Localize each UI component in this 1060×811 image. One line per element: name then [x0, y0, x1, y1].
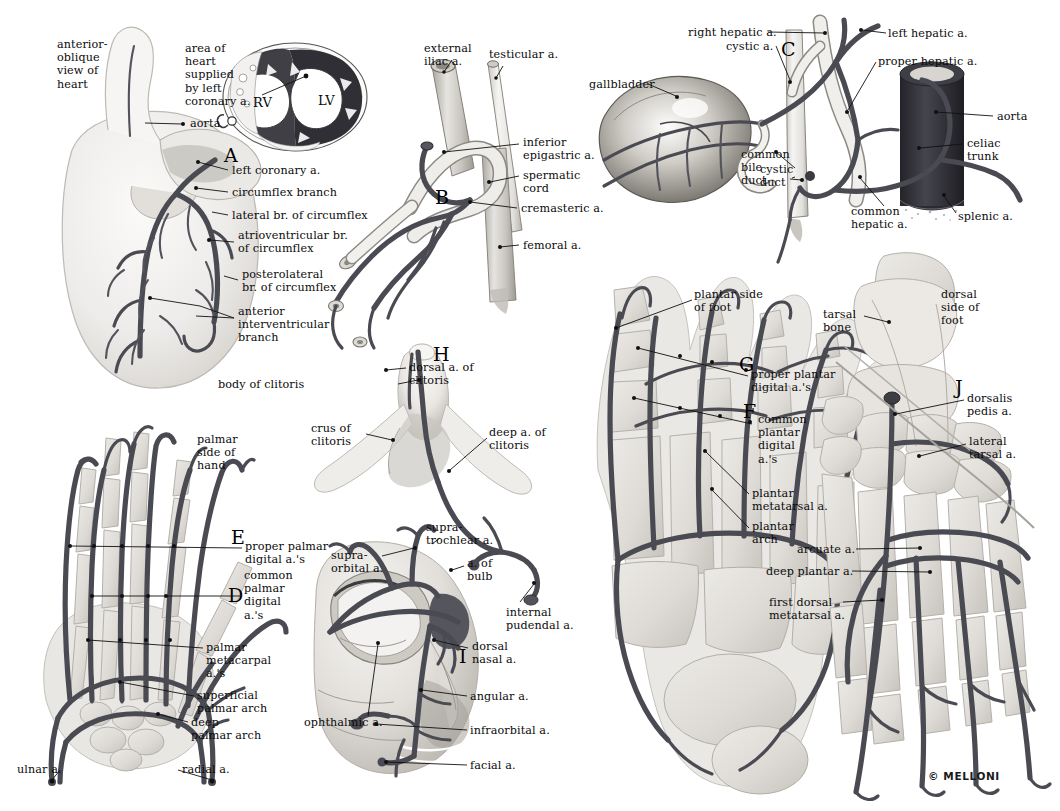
label-splenic-a: splenic a. — [958, 210, 1013, 223]
label-cystic-a: cystic a. — [726, 40, 773, 53]
label-internal-pudendal-a: internal pudendal a. — [506, 606, 574, 632]
label-body-of-clitoris: body of clitoris — [218, 378, 304, 391]
label-femoral-a: femoral a. — [523, 239, 581, 252]
label-lv: LV — [318, 94, 335, 107]
label-anterior-interventricular: anterior interventricular branch — [238, 305, 329, 345]
label-a-of-bulb: a. of bulb — [467, 557, 493, 583]
label-aorta-heart: aorta — [190, 117, 220, 130]
label-atrioventricular-br: atrioventricular br. of circumflex — [238, 229, 348, 255]
label-celiac-trunk: celiac trunk — [967, 137, 1001, 163]
label-angular-a: angular a. — [470, 690, 529, 703]
label-superficial-palmar-arch: superficial palmar arch — [197, 689, 267, 715]
label-infraorbital-a: infraorbital a. — [470, 724, 550, 737]
panel-letter-F: F — [743, 402, 756, 421]
label-plantar-arch: plantar arch — [752, 520, 794, 546]
panel-letter-D: D — [228, 586, 243, 605]
label-crus-of-clitoris: crus of clitoris — [311, 422, 351, 448]
label-spermatic-cord: spermatic cord — [523, 169, 580, 195]
label-deep-palmar-arch: deep palmar arch — [191, 716, 261, 742]
label-plantar-metatarsal-a: plantar metatarsal a. — [752, 487, 828, 513]
label-lateral-tarsal-a: lateral tarsal a. — [969, 435, 1016, 461]
label-anterior-oblique-view: anterior- oblique view of heart — [57, 38, 108, 91]
label-gallbladder: gallbladder — [589, 78, 655, 91]
label-palmar-side-of-hand: palmar side of hand — [197, 433, 238, 473]
label-right-hepatic-a: right hepatic a. — [688, 26, 777, 39]
label-proper-plantar-digital: proper plantar digital a.'s — [751, 368, 835, 394]
panel-letter-B: B — [435, 188, 449, 207]
label-radial-a: radial a. — [182, 763, 230, 776]
label-proper-palmar-digital: proper palmar digital a.'s — [245, 540, 328, 566]
plate-artwork — [0, 0, 1060, 811]
label-deep-a-of-clitoris: deep a. of clitoris — [489, 426, 546, 452]
label-common-palmar-digital: common palmar digital a.'s — [244, 569, 293, 622]
anatomy-plate: A B C E D H I G F J anterior- oblique vi… — [0, 0, 1060, 811]
label-common-plantar-digital: common plantar digital a.'s — [758, 413, 807, 466]
label-inferior-epigastric-a: inferior epigastric a. — [523, 136, 595, 162]
panel-letter-E: E — [231, 528, 245, 547]
label-supraorbital-a: supra- orbital a. — [331, 549, 383, 575]
label-testicular-a: testicular a. — [489, 48, 558, 61]
label-lateral-br-circumflex: lateral br. of circumflex — [232, 209, 368, 222]
label-rv: RV — [253, 96, 272, 109]
label-left-hepatic-a: left hepatic a. — [888, 27, 968, 40]
panel-letter-I: I — [459, 647, 467, 666]
label-cremasteric-a: cremasteric a. — [521, 202, 604, 215]
label-facial-a: facial a. — [470, 759, 516, 772]
label-area-supplied-left-coronary: area of heart supplied by left coronary … — [185, 42, 251, 108]
panel-letter-J: J — [955, 378, 963, 397]
label-palmar-metacarpal: palmar metacarpal a.'s — [206, 641, 271, 681]
label-circumflex-branch: circumflex branch — [232, 186, 337, 199]
label-ophthalmic-a: ophthalmic a. — [304, 716, 383, 729]
label-common-bile-duct: common bile duct — [741, 148, 790, 188]
label-tarsal-bone: tarsal bone — [823, 308, 856, 334]
label-arcuate-a: arcuate a. — [797, 543, 855, 556]
panel-letter-A: A — [224, 146, 238, 165]
label-posterolateral-br: posterolateral br. of circumflex — [242, 268, 336, 294]
panel-letter-C: C — [781, 40, 796, 59]
label-supratrochlear-a: supra- trochlear a. — [426, 521, 493, 547]
label-ulnar-a: ulnar a. — [17, 763, 62, 776]
label-common-hepatic-a: common hepatic a. — [851, 205, 908, 231]
label-dorsalis-pedis-a: dorsalis pedis a. — [967, 392, 1012, 418]
label-plantar-side-of-foot: plantar side of foot — [694, 288, 763, 314]
label-external-iliac-a: external iliac a. — [424, 42, 472, 68]
label-aorta-abdominal: aorta — [997, 110, 1027, 123]
copyright-notice: © MELLONI — [928, 770, 1000, 782]
label-proper-hepatic-a: proper hepatic a. — [878, 55, 977, 68]
label-dorsal-side-of-foot: dorsal side of foot — [941, 288, 979, 328]
label-dorsal-nasal-a: dorsal nasal a. — [472, 640, 516, 666]
label-first-dorsal-metatarsal-a: first dorsal metatarsal a. — [769, 596, 845, 622]
label-dorsal-a-of-clitoris: dorsal a. of clitoris — [409, 361, 474, 387]
label-left-coronary-a: left coronary a. — [232, 164, 320, 177]
label-deep-plantar-a: deep plantar a. — [766, 565, 854, 578]
